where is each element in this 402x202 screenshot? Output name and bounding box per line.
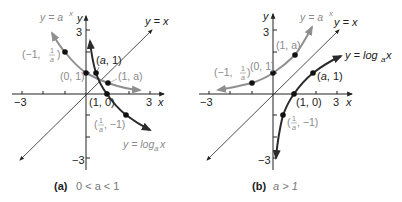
panel-a: −3 3 x y 3 −3 y = x y = a x y = log a x [12,9,169,192]
svg-text:1: 1 [241,65,245,72]
point-a-1 [93,70,99,76]
svg-text:, −1): , −1) [297,116,318,128]
svg-text:1: 1 [292,115,296,122]
svg-text:y = log: y = log [122,138,154,150]
logarithm-label: y = log a x [344,49,392,64]
svg-text:a > 1: a > 1 [273,180,298,192]
identity-label: y = x [144,15,169,27]
svg-text:(: ( [287,116,291,128]
label-1-a: (1, a) [118,70,143,82]
point-1-a [292,52,298,58]
svg-text:(: ( [94,118,98,130]
log-exp-figure: −3 3 x y 3 −3 y = x y = a x y = log a x [0,0,402,202]
point-neg1-inv-a [249,80,255,86]
x-min-label: −3 [14,96,27,108]
label-inv-a-neg1: ( 1 a , −1) [94,117,125,133]
label-a-1: (a, 1) [96,54,122,66]
label-1-0: (1, 0) [89,96,115,108]
svg-text:a: a [241,74,245,81]
exponential-label: y = a x [299,9,334,23]
svg-text:(b): (b) [252,180,266,192]
label-a-1: (a, 1) [317,70,343,82]
svg-text:(−1,: (−1, [214,66,232,78]
svg-text:y = a: y = a [39,11,63,23]
label-1-0: (1, 0) [296,96,322,108]
svg-text:(a): (a) [54,180,68,192]
svg-text:a: a [154,144,159,153]
svg-text:a: a [99,126,103,133]
svg-text:0 < a < 1: 0 < a < 1 [76,180,119,192]
svg-text:, −1): , −1) [104,118,125,130]
point-inv-a-neg1 [123,112,129,118]
panel-b: −3 3 x y 3 −3 y = x y = a x y = log a x [199,9,392,192]
svg-text:x: x [159,138,166,150]
label-1-a: (1, a) [276,39,301,51]
x-axis-label: x [345,96,352,108]
svg-text:y = log: y = log [344,49,379,61]
y-axis-label: y [262,10,270,22]
point-a-1 [310,70,316,76]
y-min-label: −3 [258,154,271,166]
exponential-label: y = a x [39,9,74,23]
caption-a: (a) 0 < a < 1 [54,180,119,192]
label-inv-a-neg1: ( 1 a , −1) [287,115,318,131]
point-neg1-inv-a [62,49,68,55]
y-max-label: 3 [263,26,269,38]
svg-text:x: x [68,9,74,18]
point-1-a [105,80,111,86]
y-axis-label: y [76,12,84,24]
svg-text:a: a [50,56,54,63]
svg-text:(−1,: (−1, [22,48,40,60]
svg-text:1: 1 [50,47,54,54]
logarithm-label: y = log a x [122,138,166,153]
label-0-1: (0, 1) [250,60,275,72]
identity-label: y = x [333,16,358,28]
svg-text:x: x [385,49,392,61]
label-neg1-inv-a: (−1, 1 a ) [22,47,61,63]
y-min-label: −3 [72,154,85,166]
x-min-label: −3 [200,96,213,108]
label-0-1: (0, 1) [60,70,85,82]
svg-text:y = a: y = a [299,11,323,23]
svg-text:): ) [57,48,61,60]
point-inv-a-neg1 [280,112,286,118]
x-max-label: 3 [333,96,339,108]
svg-text:a: a [292,124,296,131]
y-max-label: 3 [76,26,82,38]
x-max-label: 3 [146,96,152,108]
svg-text:1: 1 [99,117,103,124]
x-axis-label: x [157,96,164,108]
label-neg1-inv-a: (−1, 1 a ) [214,65,251,81]
caption-b: (b) a > 1 [252,180,298,192]
